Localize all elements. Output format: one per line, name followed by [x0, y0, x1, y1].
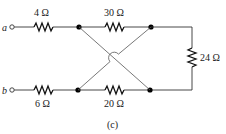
resistor-30-ohm — [105, 23, 124, 31]
resistor-24-ohm-label: 24 Ω — [200, 52, 220, 63]
resistor-6-ohm-label: 6 Ω — [35, 98, 50, 109]
resistor-6-ohm — [34, 86, 53, 94]
resistor-20-ohm — [105, 86, 124, 94]
terminal-a-label: a — [2, 22, 7, 33]
terminal-b — [10, 88, 14, 92]
resistor-30-ohm-label: 30 Ω — [104, 7, 124, 18]
terminal-a — [10, 25, 14, 29]
resistor-4-ohm-label: 4 Ω — [34, 7, 49, 18]
figure-caption: (c) — [107, 119, 118, 131]
circuit-diagram: a 4 Ω 30 Ω 24 Ω b 6 Ω 20 Ω (c) — [0, 0, 226, 134]
resistor-20-ohm-label: 20 Ω — [104, 98, 124, 109]
resistor-24-ohm — [188, 48, 196, 67]
terminal-b-label: b — [2, 85, 7, 96]
resistor-4-ohm — [34, 23, 53, 31]
